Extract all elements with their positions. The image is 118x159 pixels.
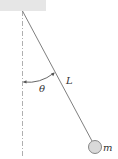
angle-label: θ: [39, 83, 45, 94]
arc-arrowhead-left: [23, 80, 27, 83]
ceiling-support: [0, 0, 46, 11]
mass-label: m: [103, 142, 112, 153]
pendulum-diagram: θ L m: [0, 0, 118, 159]
pendulum-bob: [89, 141, 102, 154]
angle-arc: [24, 73, 55, 82]
length-label: L: [65, 75, 73, 86]
pendulum-string: [23, 11, 93, 141]
